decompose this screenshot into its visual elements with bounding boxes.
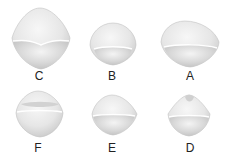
specimen-e-shape <box>92 95 137 135</box>
specimen-label-b: B <box>108 70 116 82</box>
specimen-figure: C B A F E D <box>0 0 227 163</box>
specimen-label-c: C <box>35 70 44 82</box>
specimen-a-shape <box>161 21 219 67</box>
specimen-label-d: D <box>186 142 195 154</box>
specimen-b-shape <box>90 23 136 65</box>
specimen-label-f: F <box>34 142 41 154</box>
specimen-label-a: A <box>186 70 194 82</box>
specimen-c-shape <box>12 8 70 69</box>
specimen-d-shape <box>168 95 210 136</box>
specimen-label-e: E <box>108 142 116 154</box>
specimen-f-shape <box>16 91 63 137</box>
